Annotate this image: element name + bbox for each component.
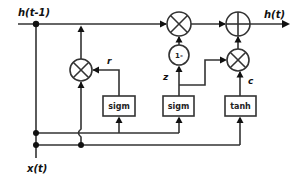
junction-dot [33, 130, 39, 136]
arrow-icon [219, 21, 226, 28]
candidate-gate-label: c [248, 76, 254, 86]
one-minus-node: 1- [169, 45, 189, 65]
arrow-icon [78, 26, 85, 33]
wire [179, 60, 225, 85]
junction-dot [78, 142, 84, 148]
arrow-icon [176, 117, 183, 124]
arrow-icon [220, 57, 227, 64]
update-sigm-box: sigm [163, 96, 194, 116]
reset-gate-label: r [107, 56, 112, 66]
candidate-activation-label: tanh [230, 102, 251, 111]
reset-sigm-box: sigm [103, 96, 135, 116]
junction-dot [33, 21, 39, 27]
arrow-icon [160, 21, 167, 28]
update-gate-label: z [162, 72, 169, 82]
wire [93, 70, 119, 96]
arrow-icon [116, 117, 123, 124]
candidate-multiply-node [227, 49, 249, 71]
reset-activation-label: sigm [108, 102, 130, 111]
reset-multiply-node [70, 59, 92, 81]
arrow-icon [176, 36, 183, 43]
update-activation-label: sigm [168, 102, 190, 111]
wire-with-hop [79, 82, 82, 145]
hidden-prev-label: h(t-1) [18, 7, 50, 18]
arrow-icon [237, 117, 244, 124]
arrow-icon [93, 67, 100, 74]
arrow-icon [78, 82, 85, 89]
add-node [226, 12, 250, 36]
arrow-icon [235, 36, 242, 43]
arrow-icon [176, 66, 183, 73]
arrow-icon [237, 71, 244, 78]
top-multiply-node [167, 12, 191, 36]
output-label: h(t) [264, 9, 285, 20]
gru-diagram: r sigm sigm z 1- [0, 0, 303, 184]
junction-dot [33, 142, 39, 148]
one-minus-label: 1- [175, 52, 183, 60]
candidate-tanh-box: tanh [225, 96, 256, 116]
arrow-icon [282, 20, 290, 28]
input-label: x(t) [26, 163, 47, 174]
